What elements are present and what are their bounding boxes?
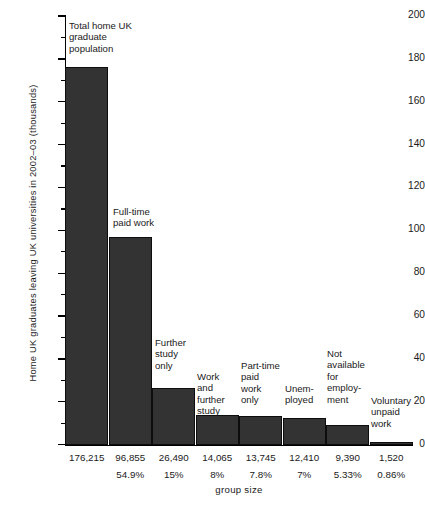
bar-category-label: Total home UK graduate population <box>69 20 132 54</box>
group-size-value: 96,855 <box>115 452 145 463</box>
group-size-value: 1,520 <box>379 452 404 463</box>
bar-category-label: Further study only <box>155 337 186 371</box>
bar-chart: Home UK graduates leaving UK universitie… <box>0 0 425 505</box>
bar[interactable] <box>65 67 108 445</box>
value-label-group: 1,5200.86% <box>366 450 418 483</box>
bar[interactable] <box>326 425 369 445</box>
group-size-value: 26,490 <box>159 452 189 463</box>
group-size-value: 13,745 <box>246 452 276 463</box>
group-size-value: 176,215 <box>69 452 104 463</box>
bar[interactable] <box>370 442 413 445</box>
y-axis-title: Home UK graduates leaving UK universitie… <box>28 33 38 433</box>
group-size-value: 9,390 <box>335 452 360 463</box>
bar[interactable] <box>109 237 152 445</box>
group-size-percent: 0.86% <box>366 467 418 484</box>
x-axis-title: group size <box>65 484 413 495</box>
bar[interactable] <box>283 418 326 445</box>
bar-category-label: Unem- ployed <box>285 383 314 406</box>
bar-category-label: Not available for employ- ment <box>327 348 365 405</box>
group-size-value: 14,065 <box>202 452 232 463</box>
bar-category-label: Voluntary unpaid work <box>371 395 411 429</box>
bar-category-label: Full-time paid work <box>113 206 154 229</box>
bar-category-label: Work and further study <box>197 371 225 417</box>
plot-area: Total home UK graduate populationFull-ti… <box>65 16 413 445</box>
bar[interactable] <box>239 416 282 445</box>
bar-category-label: Part-time paid work only <box>241 360 280 406</box>
bar[interactable] <box>196 415 239 445</box>
group-size-value: 12,410 <box>289 452 319 463</box>
bar[interactable] <box>152 388 195 445</box>
